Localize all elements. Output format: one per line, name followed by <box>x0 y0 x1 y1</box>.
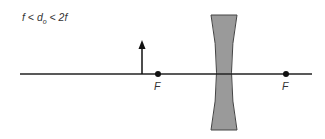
focal-label-right: F <box>282 80 288 92</box>
focal-point-left <box>155 71 161 77</box>
object-arrow <box>139 40 146 74</box>
lens-diagram <box>0 0 325 139</box>
focal-label-left: F <box>154 80 160 92</box>
diverging-lens <box>211 15 237 130</box>
focal-point-right <box>283 71 289 77</box>
